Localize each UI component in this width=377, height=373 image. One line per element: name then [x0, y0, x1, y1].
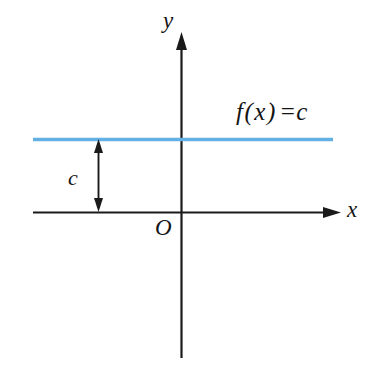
- origin-label: O: [155, 216, 172, 239]
- constant-measure-label: c: [68, 167, 78, 189]
- equation-open-paren: (: [243, 98, 254, 125]
- equation-close-paren: ): [266, 98, 277, 125]
- graph-canvas: [0, 0, 377, 373]
- equation-constant: c: [296, 98, 308, 125]
- x-axis-label: x: [347, 198, 357, 221]
- constant-function-figure: y x O c f(x)=c: [0, 0, 377, 373]
- y-axis-arrowhead-icon: [176, 32, 187, 50]
- y-axis-label: y: [163, 9, 173, 32]
- equation-variable: x: [254, 98, 266, 125]
- equation-equals: =: [277, 98, 297, 125]
- measure-arrow-down-head-icon: [94, 198, 103, 212]
- function-equation-label: f(x)=c: [236, 99, 308, 124]
- x-axis-arrowhead-icon: [323, 207, 341, 218]
